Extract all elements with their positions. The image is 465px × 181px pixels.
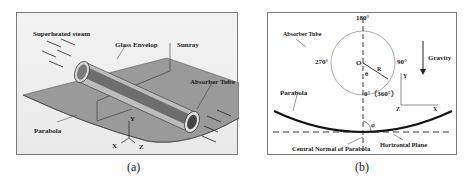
label-absorber-tube: Absorber Tube [283,31,321,37]
label-absorber-tube: Absorber Tube [190,79,235,86]
label-gravity: Gravity [428,55,451,62]
label-horizontal-plane: Horizontal Plane [380,142,427,149]
caption-b: (b) [355,161,369,173]
label-axis-y: Y [403,73,407,79]
label-axis-x: X [433,106,437,112]
label-theta: θ [365,71,368,77]
label-central-normal: Central Normal of Parabola [292,146,370,153]
label-parabola: Parabola [280,90,307,97]
label-axis-x: X [112,143,117,150]
label-180-deg: 180° [356,15,369,22]
label-parabola: Parabola [34,128,61,135]
label-superheated-steam: Superheated steam [33,31,90,38]
label-90-deg: 90° [397,59,407,66]
caption-a: (a) [127,161,140,173]
panel-a-3d-collector: Superheated steam Glass Envelop Sunray A… [16,12,238,155]
label-axis-y: Y [130,116,135,123]
label-glass-envelop: Glass Envelop [115,42,158,49]
label-0-360-deg: 0°（360°） [364,91,398,98]
panel-b-cross-section: 180° Absorber Tube 270° O R θ 90° 0°（360… [267,12,457,155]
label-phi: φ [371,122,375,128]
label-axis-z: Z [139,144,144,151]
label-origin: O [356,60,361,67]
label-270-deg: 270° [315,59,328,66]
label-sunray: Sunray [177,42,199,49]
label-radius: R [377,66,381,72]
label-axis-z: Z [396,106,400,112]
